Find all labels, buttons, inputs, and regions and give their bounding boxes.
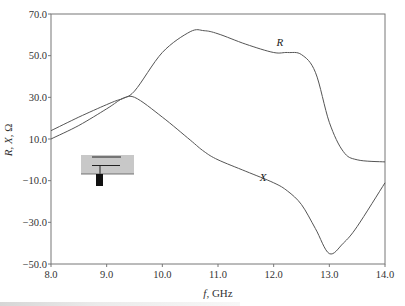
- curve-label-x: X: [259, 171, 268, 183]
- x-tick-label: 8.0: [44, 269, 57, 280]
- x-tick-label: 12.0: [264, 269, 282, 280]
- y-tick-label: −10.0: [23, 175, 47, 186]
- rx-frequency-chart: 8.09.010.011.012.013.014.070.050.030.010…: [0, 0, 405, 306]
- y-axis-label: R, X, Ω: [2, 124, 14, 158]
- curve-r: [51, 30, 385, 162]
- inset-substrate: [81, 155, 134, 174]
- x-tick-label: 13.0: [320, 269, 338, 280]
- antenna-inset: [81, 155, 134, 186]
- y-tick-label: 70.0: [29, 9, 47, 20]
- curve-labels: RX: [259, 36, 284, 182]
- plot-axes: [51, 14, 385, 264]
- x-tick-label: 11.0: [209, 269, 227, 280]
- curve-label-r: R: [275, 36, 283, 48]
- plot-frame: [51, 14, 385, 264]
- y-tick-label: 50.0: [29, 50, 47, 61]
- y-tick-label: −30.0: [23, 217, 47, 228]
- y-tick-label: 30.0: [29, 92, 47, 103]
- cropped-caption-text: [0, 302, 240, 306]
- x-tick-label: 10.0: [153, 269, 171, 280]
- x-axis-label: f, GHz: [203, 287, 232, 299]
- y-tick-label: 10.0: [29, 134, 47, 145]
- x-tick-label: 9.0: [100, 269, 113, 280]
- inset-connector: [96, 174, 103, 186]
- y-tick-label: −50.0: [23, 259, 47, 270]
- x-tick-label: 14.0: [376, 269, 394, 280]
- data-curves: [51, 30, 385, 254]
